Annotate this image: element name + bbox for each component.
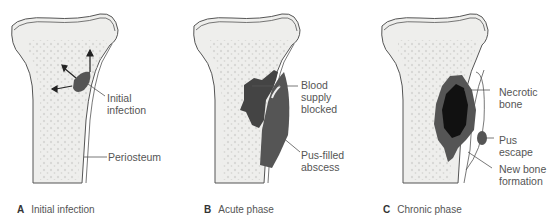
caption-a: AInitial infection <box>17 204 95 215</box>
bone-diagram-a <box>0 0 184 220</box>
label-new-bone-formation: New boneformation <box>499 163 546 187</box>
pus-escape-blob <box>477 131 487 145</box>
label-periosteum: Periosteum <box>108 151 161 163</box>
label-pus-escape: Pusescape <box>499 134 533 158</box>
caption-b: BAcute phase <box>204 204 274 215</box>
panel-chronic-phase: Necroticbone Pusescape New boneformation… <box>368 0 552 220</box>
bone-diagram-b <box>184 0 368 220</box>
label-necrotic-bone: Necroticbone <box>499 86 538 110</box>
label-blood-supply-blocked: Bloodsupplyblocked <box>301 79 337 115</box>
caption-c: CChronic phase <box>383 204 462 215</box>
label-initial-infection: Initialinfection <box>107 92 146 116</box>
label-pus-filled-abscess: Pus-filledabscess <box>301 149 344 173</box>
panel-acute-phase: Bloodsupplyblocked Pus-filledabscess BAc… <box>184 0 368 220</box>
panel-initial-infection: Initialinfection Periosteum AInitial inf… <box>0 0 184 220</box>
bone-diagram-c <box>368 0 552 220</box>
